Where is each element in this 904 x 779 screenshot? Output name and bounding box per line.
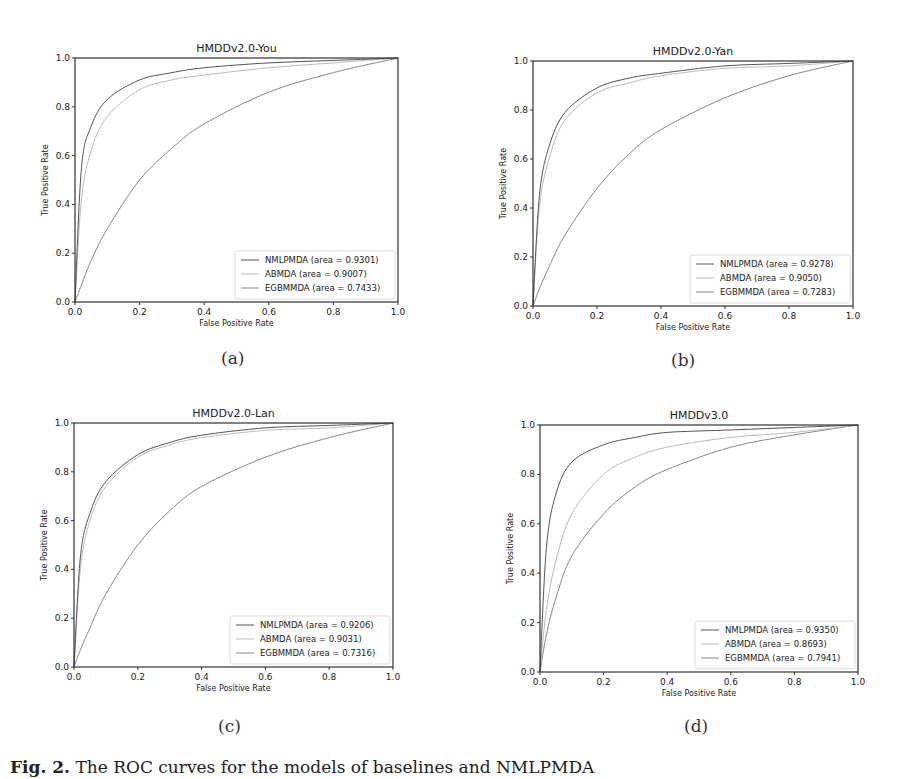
- caption-text: The ROC curves for the models of baselin…: [75, 757, 594, 777]
- caption-label: Fig. 2.: [10, 757, 70, 777]
- y-tick-label: 0.2: [521, 618, 535, 628]
- x-tick-label: 0.8: [787, 677, 802, 687]
- subfigure-label-d: (d): [684, 716, 708, 736]
- y-tick-label: 0.0: [521, 667, 536, 677]
- x-tick-label: 0.4: [660, 677, 675, 687]
- roc-panel-d: HMDDv3.00.00.20.40.60.81.00.00.20.40.60.…: [0, 0, 904, 724]
- legend-entry-abmda: ABMDA (area = 0.8693): [725, 639, 827, 649]
- legend-entry-nmlpmda: NMLPMDA (area = 0.9350): [725, 625, 839, 635]
- figure-caption: Fig. 2. The ROC curves for the models of…: [10, 757, 594, 777]
- chart-legend: NMLPMDA (area = 0.9350)ABMDA (area = 0.8…: [695, 621, 855, 669]
- x-tick-label: 0.0: [533, 677, 548, 687]
- x-tick-label: 0.6: [724, 677, 739, 687]
- y-tick-label: 0.8: [521, 469, 536, 479]
- x-axis-label: False Positive Rate: [662, 689, 736, 698]
- legend-entry-egbmmda: EGBMMDA (area = 0.7941): [725, 653, 840, 663]
- y-tick-label: 0.6: [521, 519, 536, 529]
- y-axis-label: True Positive Rate: [506, 513, 515, 585]
- chart-title: HMDDv3.0: [670, 409, 729, 422]
- x-tick-label: 0.2: [596, 677, 610, 687]
- x-tick-label: 1.0: [851, 677, 866, 687]
- y-tick-label: 1.0: [521, 420, 536, 430]
- y-tick-label: 0.4: [521, 568, 536, 578]
- roc-chart-d: HMDDv3.00.00.20.40.60.81.00.00.20.40.60.…: [0, 0, 904, 720]
